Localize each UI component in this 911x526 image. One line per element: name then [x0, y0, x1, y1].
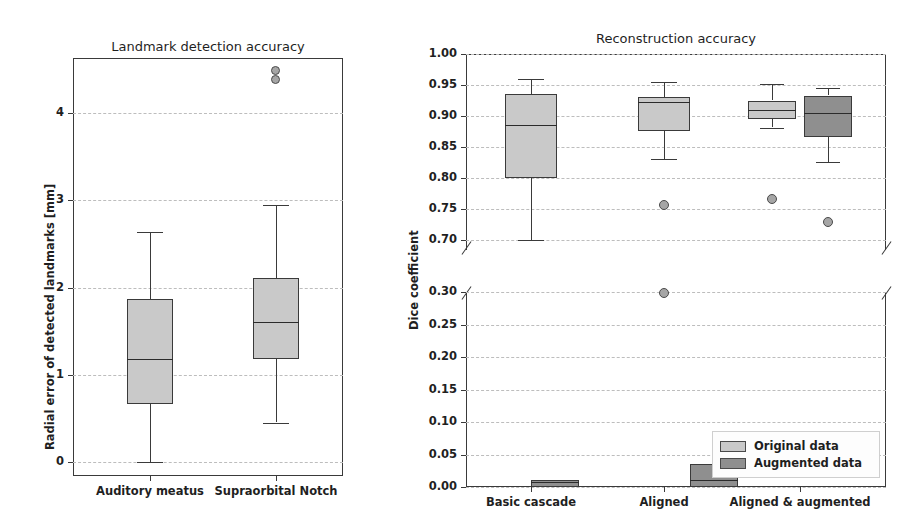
gridline-y-0_20 [466, 357, 886, 358]
gridline-y-0_10 [466, 422, 886, 423]
whisker-basic-cascade-original-lower [531, 178, 532, 240]
tick-y-0_70 [461, 240, 466, 241]
tick-y-1_00 [461, 54, 466, 55]
whisker-cap-aligned-augmented-original-lower [760, 128, 784, 129]
gridline-y-0_80 [466, 178, 886, 179]
gridline-y-0_95 [466, 85, 886, 86]
ytick-label-0_70: 0.70 [415, 234, 457, 246]
xtick-label-aligned-augmented: Aligned & augmented [710, 497, 890, 509]
box-basic-cascade-original [505, 94, 557, 178]
whisker-cap-basic-cascade-original-lower [518, 240, 544, 241]
xtick-aligned [664, 487, 665, 492]
legend-swatch-augmented-data [720, 458, 746, 469]
ytick-label-0_80: 0.80 [415, 172, 457, 184]
legend: Original data Augmented data [712, 431, 880, 478]
ytick-label-0_30: 0.30 [415, 286, 457, 298]
whisker-aligned-augmented-original-upper [772, 84, 773, 100]
reconstruction-accuracy-panel: Reconstruction accuracy Dice coefficient… [0, 0, 911, 526]
median-basic-cascade-augmented [531, 482, 579, 483]
whisker-cap-aligned-original-upper [651, 82, 677, 83]
gridline-y-0_25 [466, 325, 886, 326]
whisker-cap-aligned-original-lower [651, 159, 677, 160]
tick-y-0_25 [461, 325, 466, 326]
ytick-label-0_15: 0.15 [415, 384, 457, 396]
tick-y-0_00 [461, 487, 466, 488]
whisker-aligned-augmented-augmented-upper [828, 88, 829, 95]
whisker-aligned-original-upper [664, 82, 665, 98]
whisker-aligned-augmented-original-lower [772, 119, 773, 127]
tick-y-0_10 [461, 422, 466, 423]
ytick-label-0_25: 0.25 [415, 319, 457, 331]
tick-y-0_30 [461, 292, 466, 293]
tick-y-0_80 [461, 178, 466, 179]
whisker-cap-aligned-augmented-original-upper [760, 84, 784, 85]
outlier-point [659, 288, 669, 298]
xtick-aligned-augmented [800, 487, 801, 492]
gridline-y-1_00 [466, 54, 886, 55]
legend-item-augmented-data: Augmented data [720, 455, 871, 472]
gridline-y-0_00 [466, 487, 886, 488]
figure-root: Landmark detection accuracy Radial error… [0, 0, 911, 526]
tick-y-0_05 [461, 455, 466, 456]
whisker-aligned-augmented-augmented-lower [828, 137, 829, 162]
median-aligned-original [638, 102, 690, 103]
xtick-label-basic-cascade: Basic cascade [461, 497, 601, 509]
xtick-label-aligned: Aligned [604, 497, 724, 509]
right-panel-title: Reconstruction accuracy [466, 32, 886, 45]
whisker-cap-aligned-augmented-augmented-upper [816, 88, 840, 89]
ytick-label-0_90: 0.90 [415, 110, 457, 122]
gridline-y-0_75 [466, 209, 886, 210]
legend-swatch-original-data [720, 441, 746, 452]
tick-y-0_90 [461, 116, 466, 117]
ytick-label-0_10: 0.10 [415, 416, 457, 428]
whisker-cap-aligned-augmented-augmented-lower [816, 162, 840, 163]
gridline-y-0_15 [466, 390, 886, 391]
legend-label-augmented-data: Augmented data [754, 458, 862, 470]
tick-y-0_75 [461, 209, 466, 210]
legend-label-original-data: Original data [754, 441, 839, 453]
tick-y-0_15 [461, 390, 466, 391]
ytick-label-0_85: 0.85 [415, 141, 457, 153]
median-aligned-augmented-original [748, 110, 796, 111]
outlier-point [823, 217, 833, 227]
whisker-aligned-original-lower [664, 131, 665, 160]
tick-y-0_85 [461, 147, 466, 148]
ytick-label-0_05: 0.05 [415, 449, 457, 461]
ytick-label-0_20: 0.20 [415, 351, 457, 363]
tick-y-0_95 [461, 85, 466, 86]
xtick-basic-cascade [531, 487, 532, 492]
tick-y-0_20 [461, 357, 466, 358]
whisker-basic-cascade-original-upper [531, 79, 532, 95]
box-aligned-augmented-augmented [804, 96, 852, 138]
legend-item-original-data: Original data [720, 438, 871, 455]
ytick-label-0_75: 0.75 [415, 203, 457, 215]
ytick-label-0_95: 0.95 [415, 79, 457, 91]
whisker-cap-basic-cascade-original-upper [518, 79, 544, 80]
median-basic-cascade-original [505, 125, 557, 126]
ytick-label-0_00: 0.00 [415, 481, 457, 493]
median-aligned-augmented-augmented [804, 113, 852, 114]
outlier-point [659, 200, 669, 210]
median-aligned-augmented [690, 480, 738, 481]
ytick-label-1_00: 1.00 [415, 48, 457, 60]
gridline-y-0_30 [466, 292, 886, 293]
